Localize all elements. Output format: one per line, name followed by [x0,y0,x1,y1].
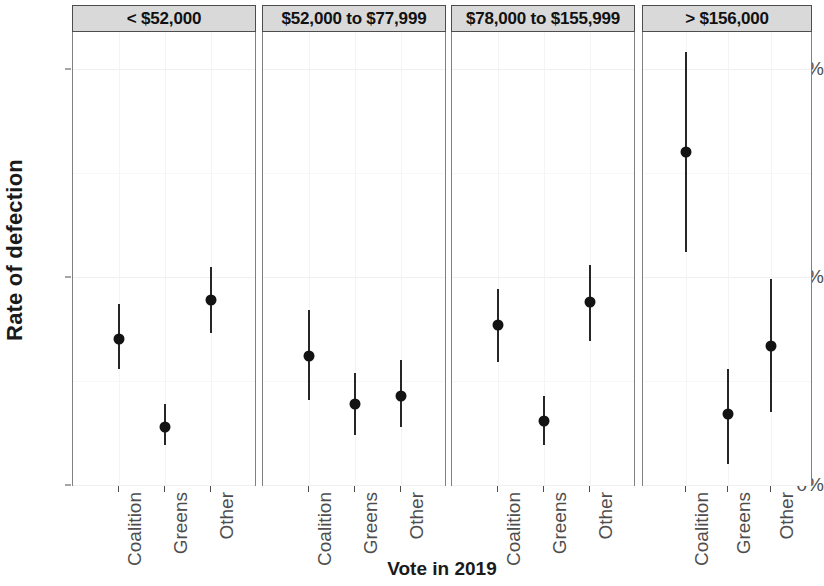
x-axis-tick-label-text: Greens [736,492,752,554]
data-point [765,340,776,351]
x-axis-tick-label-text: Coalition [317,492,333,566]
gridline-vertical [498,32,499,485]
x-axis-tick-label: Coalition [488,492,506,508]
x-axis-tick-label-text: Coalition [694,492,710,566]
x-axis-tick-label: Coalition [676,492,694,508]
x-axis-title: Vote in 2019 [72,558,812,580]
x-axis-tick-label: Greens [534,492,552,508]
data-point [350,398,361,409]
faceted-dotplot-figure: Rate of defection 0%10%20% < $52,000Coal… [0,0,824,586]
x-axis-tick-label-text: Coalition [127,492,143,566]
x-axis-tick-label-text: Other [219,492,235,540]
x-axis-tick-label: Other [761,492,779,508]
gridline-minor [643,173,811,174]
x-axis-tick-label: Greens [155,492,173,508]
gridline-vertical [590,32,591,485]
x-axis-tick-label-text: Other [779,492,795,540]
gridline-minor [452,173,634,174]
data-point [539,415,550,426]
facet-strip-label: $78,000 to $155,999 [451,5,635,32]
facet-panel: $78,000 to $155,999 [451,5,635,486]
plot-area [72,32,256,486]
plot-area [642,32,812,486]
x-axis-tick-label-text: Other [409,492,425,540]
y-axis-title-text: Rate of defection [2,159,28,341]
data-point [304,351,315,362]
x-axis-tick-label: Coalition [109,492,127,508]
data-point [160,421,171,432]
data-point [585,296,596,307]
facet-panel: $52,000 to $77,999 [262,5,446,486]
x-axis-tick-label: Greens [345,492,363,508]
x-axis-tick-label: Other [201,492,219,508]
plot-area [262,32,446,486]
x-axis-tick-label: Other [580,492,598,508]
data-point [114,334,125,345]
gridline-minor [73,381,255,382]
facet-strip-label: < $52,000 [72,5,256,32]
gridline-vertical [119,32,120,485]
x-axis-tick-label-text: Greens [173,492,189,554]
y-axis-tick-mark [65,69,71,70]
facet-panel: > $156,000 [642,5,812,486]
y-axis-tick-mark [65,485,71,486]
gridline-vertical [211,32,212,485]
gridline-major [643,69,811,70]
x-axis-tick-label: Other [391,492,409,508]
gridline-minor [452,381,634,382]
data-point [493,319,504,330]
gridline-major [73,277,255,278]
gridline-vertical [309,32,310,485]
y-axis-tick-mark [65,277,71,278]
data-point [396,390,407,401]
x-axis-tick-label: Greens [718,492,736,508]
x-axis-tick-label: Coalition [299,492,317,508]
data-point [680,147,691,158]
gridline-major [73,69,255,70]
x-axis-tick-label-text: Other [598,492,614,540]
gridline-major [643,277,811,278]
data-point [206,294,217,305]
data-point [723,409,734,420]
facet-panel: < $52,000 [72,5,256,486]
x-axis-tick-label-text: Greens [363,492,379,554]
x-axis-tick-label-text: Coalition [506,492,522,566]
facet-strip-label: > $156,000 [642,5,812,32]
x-axis-tick-label-text: Greens [552,492,568,554]
gridline-major [452,69,634,70]
gridline-minor [73,173,255,174]
plot-area [451,32,635,486]
gridline-major [452,277,634,278]
y-axis-title: Rate of defection [0,0,30,500]
facet-strip-label: $52,000 to $77,999 [262,5,446,32]
gridline-major [263,69,445,70]
gridline-major [263,277,445,278]
gridline-minor [263,173,445,174]
gridline-vertical [771,32,772,485]
